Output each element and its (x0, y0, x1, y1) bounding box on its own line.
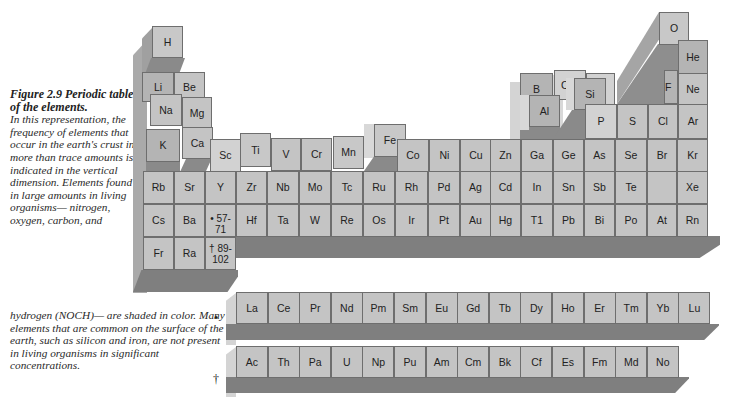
element-ga: Ga (521, 139, 553, 172)
lanthanide-placeholder: • 57-71 (205, 204, 236, 237)
element-ru: Ru (363, 171, 395, 204)
element-ag: Ag (460, 171, 491, 204)
element-ti: Ti (240, 133, 271, 167)
element-in: In (521, 171, 553, 204)
element-cr: Cr (301, 138, 332, 171)
element-al: Al (529, 95, 560, 127)
element-ne: Ne (678, 73, 708, 106)
element-tl: T1 (521, 204, 553, 237)
element-ba: Ba (174, 204, 205, 237)
element-pt: Pt (428, 204, 460, 237)
element-at: At (647, 204, 677, 237)
element-cf: Cf (520, 346, 552, 378)
element-pr: Pr (299, 292, 331, 324)
element-as: As (584, 139, 615, 172)
element-th: Th (268, 346, 300, 378)
element-la: La (236, 292, 268, 324)
element-cu: Cu (460, 139, 492, 172)
ca-underside (180, 158, 212, 172)
element-h: H (152, 26, 183, 58)
actinide-marker: † (213, 372, 219, 387)
element-sb: Sb (584, 171, 615, 204)
element-lu: Lu (678, 292, 710, 324)
element-na: Na (150, 94, 182, 126)
element-er: Er (584, 292, 616, 324)
periodic-table-3d: H Li Be Na Mg K Ca Sc Ti V Cr Mn Fe Co N… (0, 0, 746, 402)
element-ge: Ge (553, 139, 584, 172)
element-rn: Rn (677, 204, 708, 237)
element-nd: Nd (331, 292, 363, 324)
element-md: Md (615, 346, 647, 378)
element-ta: Ta (267, 204, 299, 237)
element-ca: Ca (182, 127, 213, 159)
element-au: Au (460, 204, 491, 237)
left-block-base (133, 270, 238, 292)
al-side (520, 95, 529, 130)
element-ir: Ir (395, 204, 428, 237)
lanthanide-base (226, 324, 719, 340)
main-table-base (210, 236, 720, 258)
element-br: Br (647, 139, 677, 172)
element-gd: Gd (457, 292, 489, 324)
lanthanide-marker: • (214, 311, 218, 326)
element-sm: Sm (394, 292, 426, 324)
element-pm: Pm (362, 292, 394, 324)
element-cd: Cd (490, 171, 521, 204)
element-zn: Zn (490, 139, 521, 172)
element-cs: Cs (143, 204, 174, 237)
element-nb: Nb (267, 171, 299, 204)
element-ar: Ar (678, 104, 708, 139)
element-zr: Zr (236, 171, 267, 204)
element-cl: Cl (648, 104, 678, 139)
element-tc: Tc (331, 171, 363, 204)
element-se: Se (615, 139, 647, 172)
element-u: U (331, 346, 363, 378)
element-eu: Eu (426, 292, 458, 324)
element-hg: Hg (490, 204, 521, 237)
element-te: Te (615, 171, 647, 204)
element-ra: Ra (174, 237, 205, 270)
element-f: F (664, 70, 678, 104)
element-bi: Bi (584, 204, 615, 237)
element-dy: Dy (520, 292, 552, 324)
element-hf: Hf (236, 204, 267, 237)
element-co: Co (397, 139, 429, 172)
element-kr: Kr (677, 139, 708, 172)
element-tb: Tb (489, 292, 521, 324)
element-mo: Mo (299, 171, 331, 204)
actinide-placeholder: † 89-102 (205, 237, 236, 270)
element-ni: Ni (429, 139, 460, 172)
element-ho: Ho (552, 292, 584, 324)
element-blank-i (647, 171, 677, 204)
element-rh: Rh (395, 171, 428, 204)
b-side (510, 82, 520, 139)
element-sn: Sn (553, 171, 584, 204)
element-rb: Rb (143, 171, 174, 204)
element-pd: Pd (428, 171, 460, 204)
element-es: Es (552, 346, 584, 378)
actinide-base (226, 377, 689, 393)
element-po: Po (615, 204, 647, 237)
element-tm: Tm (615, 292, 647, 324)
element-pb: Pb (553, 204, 584, 237)
element-bk: Bk (489, 346, 521, 378)
element-pu: Pu (394, 346, 426, 378)
element-k: K (146, 129, 180, 162)
element-ce: Ce (268, 292, 300, 324)
element-he: He (678, 40, 708, 74)
element-w: W (299, 204, 331, 237)
element-xe: Xe (677, 171, 708, 204)
element-s: S (617, 104, 648, 139)
element-mn: Mn (333, 136, 364, 169)
element-np: Np (362, 346, 394, 378)
element-sr: Sr (174, 171, 205, 204)
element-os: Os (363, 204, 395, 237)
element-p: P (585, 104, 617, 139)
element-fm: Fm (584, 346, 616, 378)
element-pa: Pa (299, 346, 331, 378)
element-fr: Fr (143, 237, 174, 270)
element-sc: Sc (210, 139, 241, 172)
element-am: Am (426, 346, 458, 378)
element-mg: Mg (182, 97, 212, 129)
element-ac: Ac (236, 346, 268, 378)
